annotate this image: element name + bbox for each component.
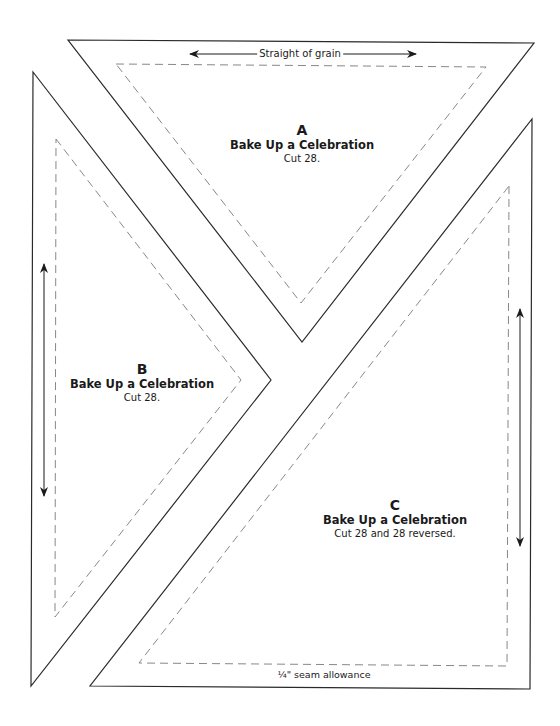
seam-allowance-label: ¼" seam allowance [277, 669, 370, 681]
piece-c-label: C Bake Up a Celebration Cut 28 and 28 re… [323, 498, 467, 540]
piece-a-title: Bake Up a Celebration [230, 138, 374, 152]
piece-b-label: B Bake Up a Celebration Cut 28. [70, 362, 214, 404]
piece-a [68, 40, 534, 342]
piece-c-seam-line [139, 186, 509, 666]
piece-c [90, 119, 532, 689]
piece-b-letter: B [70, 362, 214, 377]
piece-a-letter: A [230, 123, 374, 138]
piece-a-seam-line [116, 64, 486, 303]
piece-c-cut-instruction: Cut 28 and 28 reversed. [323, 527, 467, 540]
piece-c-title: Bake Up a Celebration [323, 513, 467, 527]
piece-b-cut-instruction: Cut 28. [70, 391, 214, 404]
piece-c-cut-line [90, 119, 532, 689]
piece-a-cut-line [68, 40, 534, 342]
piece-a-label: A Bake Up a Celebration Cut 28. [230, 123, 374, 165]
piece-b-title: Bake Up a Celebration [70, 377, 214, 391]
grain-label: Straight of grain [257, 48, 343, 60]
piece-a-cut-instruction: Cut 28. [230, 152, 374, 165]
piece-c-letter: C [323, 498, 467, 513]
